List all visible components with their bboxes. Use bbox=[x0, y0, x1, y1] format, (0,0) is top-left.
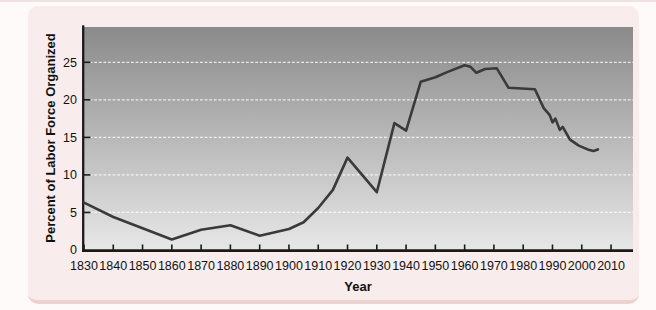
y-tick-label-25: 25 bbox=[63, 56, 77, 70]
x-tick-label-1990: 1990 bbox=[539, 259, 567, 273]
x-tick-label-1930: 1930 bbox=[363, 259, 391, 273]
x-tick-label-1960: 1960 bbox=[451, 259, 479, 273]
y-tick-label-0: 0 bbox=[70, 243, 77, 257]
x-tick-label-1850: 1850 bbox=[129, 259, 157, 273]
y-axis-title: Percent of Labor Force Organized bbox=[43, 33, 58, 243]
x-tick-label-2010: 2010 bbox=[597, 259, 625, 273]
x-tick-label-1980: 1980 bbox=[509, 259, 537, 273]
x-axis-title: Year bbox=[344, 279, 371, 294]
x-tick-label-1920: 1920 bbox=[334, 259, 362, 273]
x-tick-label-1880: 1880 bbox=[216, 259, 244, 273]
x-tick-label-1840: 1840 bbox=[99, 259, 127, 273]
x-tick-label-1950: 1950 bbox=[421, 259, 449, 273]
x-tick-label-1830: 1830 bbox=[70, 259, 98, 273]
x-tick-label-1860: 1860 bbox=[158, 259, 186, 273]
plot-area-background bbox=[84, 27, 633, 250]
x-tick-label-1910: 1910 bbox=[304, 259, 332, 273]
x-tick-label-2000: 2000 bbox=[568, 259, 596, 273]
labor-force-organized-chart: 0510152025183018401850186018701880189019… bbox=[0, 0, 656, 310]
x-tick-label-1970: 1970 bbox=[480, 259, 508, 273]
x-tick-label-1940: 1940 bbox=[392, 259, 420, 273]
y-tick-label-20: 20 bbox=[63, 93, 77, 107]
y-tick-label-5: 5 bbox=[70, 206, 77, 220]
y-tick-label-10: 10 bbox=[63, 168, 77, 182]
x-tick-label-1870: 1870 bbox=[187, 259, 215, 273]
x-tick-label-1890: 1890 bbox=[246, 259, 274, 273]
x-tick-label-1900: 1900 bbox=[275, 259, 303, 273]
y-tick-label-15: 15 bbox=[63, 131, 77, 145]
